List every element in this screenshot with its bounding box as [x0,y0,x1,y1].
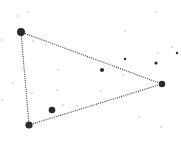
faint-point [124,30,126,32]
faint-point [138,116,140,118]
faint-point [57,69,59,71]
faint-point [171,46,173,48]
faint-point [76,105,78,107]
faint-point [100,90,102,92]
triangle-vertices [17,28,165,129]
faint-point [27,11,29,13]
faint-point [16,15,18,17]
faint-point [160,126,162,128]
faint-point [1,99,3,101]
triangle-edge-CA [21,32,29,125]
diagram-canvas [0,0,181,145]
faint-point [62,104,64,106]
triangle-vertex-C [25,121,32,128]
dark-point [176,52,178,54]
triangle-edge-BC [29,84,162,125]
faint-point [31,92,33,94]
triangle-point-diagram [0,0,181,145]
dark-point [49,107,56,114]
triangle-edge-AB [21,32,162,84]
faint-point [56,89,58,91]
faint-point [155,11,157,13]
triangle-vertex-A [17,28,25,36]
faint-points [1,11,173,128]
dark-point [154,61,157,64]
faint-point [12,82,14,84]
triangle-edges [21,32,162,125]
dark-points [49,52,179,113]
faint-point [1,39,3,41]
triangle-vertex-B [159,81,165,87]
faint-point [32,40,34,42]
faint-point [122,74,124,76]
dark-point [100,68,104,72]
faint-point [157,52,159,54]
dark-point [124,58,126,60]
